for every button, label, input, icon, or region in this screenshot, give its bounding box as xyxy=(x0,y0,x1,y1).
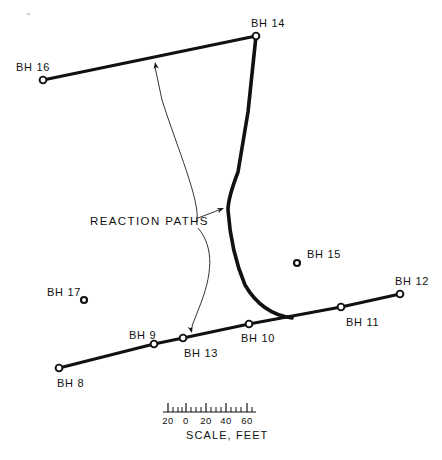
borehole-label-bh10: BH 10 xyxy=(241,333,275,344)
leader-lines-group xyxy=(152,62,225,334)
reaction-path-curve-group xyxy=(228,36,292,318)
borehole-label-bh11: BH 11 xyxy=(346,317,379,328)
borehole-node-bh15[interactable] xyxy=(294,260,300,266)
borehole-node-bh13[interactable] xyxy=(180,335,187,342)
leader-to-lower-line-arrowhead-icon xyxy=(188,326,195,334)
bh16-bh14-line xyxy=(43,36,256,80)
scale-tick-label-0: 20 xyxy=(162,416,174,426)
borehole-node-bh10[interactable] xyxy=(246,321,253,328)
borehole-reaction-path-diagram: BH 16BH 14BH 15BH 12BH 11BH 10BH 13BH 9B… xyxy=(0,0,442,460)
bh8-bh12-line xyxy=(59,294,400,368)
leader-to-curve-bend-arrowhead-icon xyxy=(217,206,225,213)
leader-to-lower-line xyxy=(192,228,210,326)
borehole-node-bh9[interactable] xyxy=(151,341,158,348)
borehole-node-bh17[interactable] xyxy=(81,297,87,303)
borehole-label-bh14: BH 14 xyxy=(251,18,285,29)
borehole-label-bh8: BH 8 xyxy=(57,378,84,389)
scale-tick-label-1: 0 xyxy=(183,416,189,426)
scale-bar-group xyxy=(163,403,256,412)
reaction-path-curve xyxy=(228,36,292,318)
paper-speck xyxy=(27,13,30,15)
borehole-node-bh14[interactable] xyxy=(253,33,260,40)
scale-tick-label-4: 60 xyxy=(241,416,253,426)
borehole-label-bh16: BH 16 xyxy=(16,62,50,73)
diagram-canvas xyxy=(0,0,442,460)
borehole-node-bh12[interactable] xyxy=(397,291,404,298)
borehole-node-bh16[interactable] xyxy=(40,77,47,84)
borehole-label-bh9: BH 9 xyxy=(129,330,156,341)
scale-tick-label-2: 20 xyxy=(200,416,212,426)
scale-caption: SCALE, FEET xyxy=(186,430,268,441)
reaction-paths-label: REACTION PATHS xyxy=(90,216,209,228)
scale-tick-label-3: 40 xyxy=(220,416,232,426)
borehole-node-bh8[interactable] xyxy=(56,365,63,372)
borehole-label-bh17: BH 17 xyxy=(47,287,81,298)
borehole-label-bh15: BH 15 xyxy=(307,249,341,260)
borehole-label-bh13: BH 13 xyxy=(184,348,218,359)
leader-to-upper-line xyxy=(155,67,197,222)
borehole-label-bh12: BH 12 xyxy=(395,276,429,287)
borehole-node-bh11[interactable] xyxy=(338,304,345,311)
